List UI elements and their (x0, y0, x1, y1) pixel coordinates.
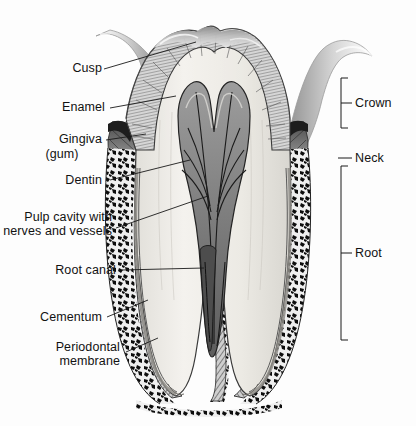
label-cusp: Cusp (22, 61, 102, 75)
label-gingiva-gum: (gum) (22, 147, 102, 161)
label-root-canal: Root canal (20, 263, 116, 277)
label-neck: Neck (355, 151, 415, 165)
label-root: Root (355, 246, 415, 260)
label-dentin: Dentin (10, 173, 102, 187)
label-pulp-cavity-line2: nerves and vessels (0, 224, 112, 238)
label-periodontal-line2: membrane (14, 354, 120, 368)
label-cementum: Cementum (10, 310, 102, 324)
label-periodontal: Periodontal (14, 340, 120, 354)
label-gingiva: Gingiva (10, 132, 102, 146)
tooth-body (126, 26, 291, 396)
tooth-anatomy-figure: Cusp Enamel Gingiva (gum) Dentin Pulp ca… (0, 0, 416, 426)
label-enamel: Enamel (10, 100, 105, 114)
label-crown: Crown (355, 96, 415, 110)
label-pulp-cavity: Pulp cavity with (4, 210, 112, 224)
